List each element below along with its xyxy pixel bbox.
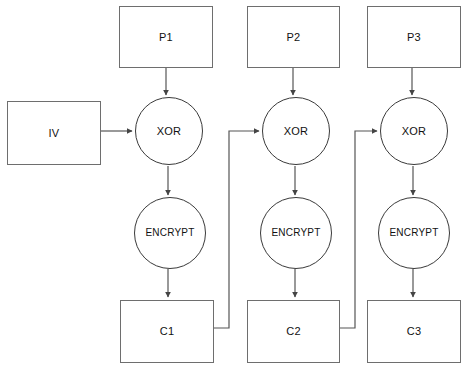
node-iv[interactable]: IV [7,101,101,165]
node-plaintext-p2[interactable]: P2 [247,6,340,68]
wire-c1-feedback-to-xor2 [214,131,259,328]
node-plaintext-p3[interactable]: P3 [367,6,461,68]
node-ciphertext-c1-label: C1 [160,326,174,337]
node-xor-3-label: XOR [402,126,426,137]
node-plaintext-p1[interactable]: P1 [119,6,213,68]
node-encrypt-3[interactable]: ENCRYPT [378,197,450,269]
node-xor-1-label: XOR [157,126,181,137]
node-plaintext-p2-label: P2 [287,32,301,43]
node-ciphertext-c3[interactable]: C3 [367,300,461,363]
node-ciphertext-c2[interactable]: C2 [247,300,340,363]
node-plaintext-p1-label: P1 [159,32,173,43]
node-encrypt-3-label: ENCRYPT [389,228,438,238]
node-encrypt-1-label: ENCRYPT [145,228,194,238]
node-ciphertext-c1[interactable]: C1 [120,300,214,363]
node-xor-2[interactable]: XOR [262,97,330,165]
node-xor-2-label: XOR [284,126,308,137]
node-encrypt-2-label: ENCRYPT [271,228,320,238]
node-encrypt-1[interactable]: ENCRYPT [134,197,206,269]
node-encrypt-2[interactable]: ENCRYPT [260,197,332,269]
node-plaintext-p3-label: P3 [407,32,421,43]
diagram-canvas: IV P1 P2 P3 XOR XOR XOR ENCRYPT ENCRYPT … [0,0,466,366]
node-ciphertext-c3-label: C3 [407,326,421,337]
node-xor-1[interactable]: XOR [135,97,203,165]
node-ciphertext-c2-label: C2 [286,326,300,337]
node-xor-3[interactable]: XOR [380,97,448,165]
node-iv-label: IV [49,128,60,139]
wire-c2-feedback-to-xor3 [340,131,377,328]
